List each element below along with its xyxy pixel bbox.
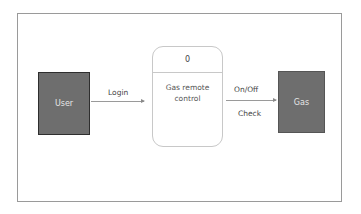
user-entity-label: User	[55, 99, 73, 108]
gas-entity: Gas	[278, 71, 325, 133]
user-entity: User	[38, 72, 90, 135]
gas-remote-control-process: 0 Gas remote control	[152, 46, 223, 147]
gas-entity-label: Gas	[294, 98, 309, 107]
gas-flow-arrow	[226, 100, 276, 101]
process-name: Gas remote control	[153, 82, 222, 104]
check-flow-label: Check	[238, 109, 261, 118]
login-flow-label: Login	[108, 88, 128, 97]
onoff-flow-label: On/Off	[234, 85, 258, 94]
login-flow-arrow	[91, 101, 144, 102]
process-number: 0	[153, 47, 222, 73]
